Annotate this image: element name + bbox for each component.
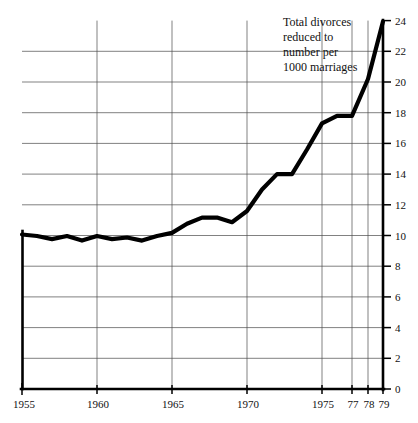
- ylabel-18: 18: [395, 107, 407, 119]
- divorce-rate-chart: 0 2 4 6 8 10 12 14 16 18 20 22 24: [0, 0, 418, 423]
- annotation-line-2: reduced to: [283, 30, 333, 44]
- ylabel-6: 6: [395, 291, 401, 303]
- ylabel-22: 22: [395, 45, 406, 57]
- xlabel-1970: 1970: [237, 398, 260, 410]
- ylabel-8: 8: [395, 260, 401, 272]
- ylabel-0: 0: [395, 383, 401, 395]
- xlabel-1965: 1965: [162, 398, 185, 410]
- ylabel-24: 24: [395, 15, 407, 27]
- x-axis-tick-labels: 1955 1960 1965 1970 1975 77 78 79: [13, 398, 390, 410]
- xlabel-1977: 77: [348, 398, 360, 410]
- annotation-line-1: Total divorces: [283, 15, 351, 29]
- xlabel-1978: 78: [364, 398, 376, 410]
- ylabel-12: 12: [395, 199, 406, 211]
- ylabel-16: 16: [395, 137, 407, 149]
- xlabel-1960: 1960: [87, 398, 110, 410]
- xlabel-1979: 79: [379, 398, 391, 410]
- annotation-line-4: 1000 marriages: [283, 60, 358, 74]
- xlabel-1955: 1955: [13, 398, 36, 410]
- horizontal-gridlines: [22, 51, 383, 358]
- chart-canvas: 0 2 4 6 8 10 12 14 16 18 20 22 24: [0, 0, 418, 423]
- ylabel-10: 10: [395, 230, 407, 242]
- ylabel-14: 14: [395, 168, 407, 180]
- annotation-line-3: number per: [283, 45, 338, 59]
- ylabel-4: 4: [395, 322, 401, 334]
- ylabel-2: 2: [395, 352, 401, 364]
- y-axis-tick-labels: 0 2 4 6 8 10 12 14 16 18 20 22 24: [395, 15, 407, 395]
- ylabel-20: 20: [395, 76, 407, 88]
- series-annotation: Total divorces reduced to number per 100…: [283, 15, 358, 74]
- xlabel-1975: 1975: [312, 398, 335, 410]
